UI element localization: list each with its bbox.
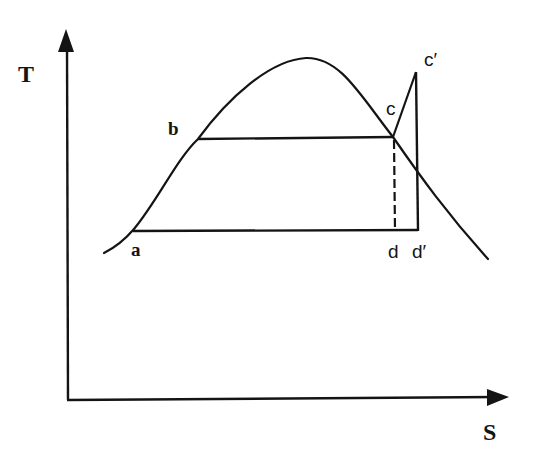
point-label-c-prime: c′ [424, 49, 438, 70]
x-axis-arrowhead-icon [487, 389, 509, 406]
line-a-dprime [133, 230, 418, 231]
x-axis [67, 389, 509, 406]
point-label-d: d [388, 241, 399, 262]
line-b-c [198, 137, 393, 139]
point-label-c: c [386, 98, 396, 119]
line-cprime-dprime [416, 72, 418, 231]
ts-diagram: T S a b c c′ d d′ [0, 0, 537, 474]
line-c-d-dashed [394, 140, 395, 231]
x-axis-label: S [483, 419, 496, 445]
point-label-b: b [168, 118, 179, 139]
saturation-dome-curve [104, 58, 488, 259]
line-c-cprime [393, 72, 416, 137]
y-axis-arrowhead-icon [58, 29, 74, 52]
y-axis-label: T [18, 61, 34, 87]
point-label-a: a [131, 239, 141, 260]
point-label-d-prime: d′ [412, 241, 427, 262]
y-axis [58, 29, 74, 400]
